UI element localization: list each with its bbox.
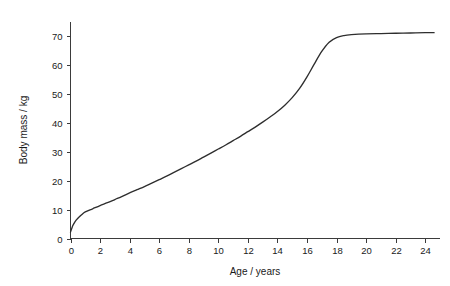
x-tick-label: 24 (420, 245, 431, 256)
x-tick-label: 14 (272, 245, 283, 256)
y-tick-label: 70 (52, 31, 63, 42)
chart-axes (71, 22, 441, 239)
x-tick-label: 18 (332, 245, 343, 256)
x-tick-label: 2 (98, 245, 103, 256)
x-tick-label: 12 (243, 245, 254, 256)
y-tick-label: 40 (52, 118, 63, 129)
x-tick-label: 0 (69, 245, 74, 256)
y-axis-ticks (67, 37, 71, 240)
x-tick-label: 16 (302, 245, 313, 256)
x-axis-title: Age / years (230, 266, 281, 277)
x-tick-label: 6 (157, 245, 162, 256)
y-tick-label: 50 (52, 89, 63, 100)
x-tick-label: 20 (361, 245, 372, 256)
x-tick-label: 8 (187, 245, 192, 256)
y-tick-label: 10 (52, 205, 63, 216)
x-axis-tick-labels: 024681012141618202224 (69, 245, 431, 256)
chart-figure: 010203040506070 024681012141618202224 Ag… (0, 0, 450, 286)
body-mass-vs-age-chart: 010203040506070 024681012141618202224 Ag… (0, 0, 450, 286)
body-mass-curve (71, 33, 435, 232)
y-axis-tick-labels: 010203040506070 (52, 31, 63, 245)
y-tick-label: 20 (52, 176, 63, 187)
x-tick-label: 10 (213, 245, 224, 256)
y-tick-label: 0 (57, 234, 62, 245)
y-tick-label: 60 (52, 60, 63, 71)
x-axis-ticks (72, 239, 426, 243)
x-tick-label: 4 (128, 245, 133, 256)
x-tick-label: 22 (391, 245, 402, 256)
y-tick-label: 30 (52, 147, 63, 158)
y-axis-title: Body mass / kg (18, 96, 29, 164)
